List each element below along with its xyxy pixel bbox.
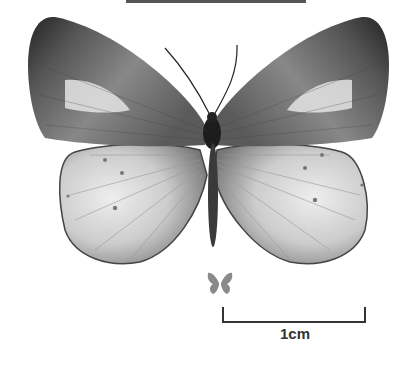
- scale-bar: [222, 307, 368, 325]
- left-hindwing: [60, 144, 207, 263]
- scale-bar-line: [222, 307, 366, 323]
- scale-bar-label: 1cm: [222, 325, 368, 342]
- butterfly-specimen: [0, 0, 417, 290]
- left-forewing: [28, 17, 205, 146]
- right-hindwing: [214, 144, 367, 263]
- right-forewing: [212, 17, 389, 146]
- butterfly-size-icon: [206, 270, 234, 296]
